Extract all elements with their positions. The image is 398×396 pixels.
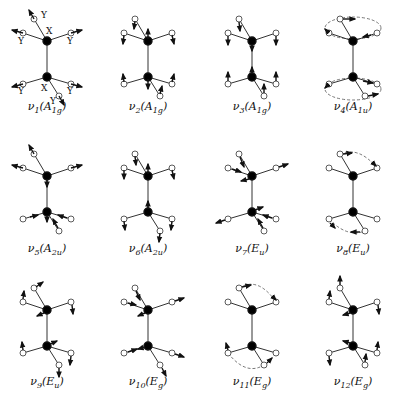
mode-v3-diagram [225,16,279,99]
atom-label-y: Y [17,86,25,96]
mode-label-v6: ν6(A2u) [98,242,198,257]
vibrational-modes-diagram: Y X Y Y Y X Y Y [0,0,398,396]
mode-label-v9: ν9(Eu) [0,375,97,390]
atom-label-y: Y [40,10,48,20]
mode-v10-diagram [121,285,184,376]
mode-label-v2: ν2(A1g) [98,100,198,115]
mode-v5-diagram [12,145,82,234]
mode-label-v4: ν4(A1u) [303,100,398,115]
mode-label-v5: ν5(A2u) [0,242,97,257]
atom-label-y: Y [17,36,25,46]
mode-label-v7: ν7(Eu) [202,242,302,257]
mode-v7-diagram [216,151,288,234]
mode-label-v12: ν12(Eg) [303,375,398,390]
atom-labels: Y X Y Y Y X Y Y [17,10,74,106]
mode-v9-diagram [20,282,74,377]
atom-label-y: Y [66,36,74,46]
mode-label-v11: ν11(Eg) [202,375,302,390]
atom-label-x: X [41,83,48,93]
mode-v12-diagram [326,276,380,368]
mode-label-v1: ν1(A1g) [0,100,97,115]
mode-v2-diagram [121,16,175,99]
mode-label-v3: ν3(A1g) [202,100,302,115]
mode-v11-diagram [225,284,279,368]
mode-v6-diagram [121,151,175,242]
mode-label-v8: ν8(Eu) [303,242,398,257]
atom-label-y: Y [66,86,74,96]
mode-v4-diagram [325,16,381,100]
atom-label-x: X [46,26,53,36]
mode-label-v10: ν10(Eg) [98,375,198,390]
mode-v8-diagram [326,151,380,234]
